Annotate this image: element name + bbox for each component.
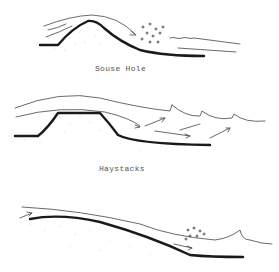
flow-arrow (155, 131, 190, 138)
flow-line (48, 24, 66, 30)
haystacks-label: Haystacks (99, 164, 145, 173)
river-features-diagram (0, 0, 279, 272)
riverbed-rock (30, 217, 243, 257)
flow-line (22, 207, 272, 244)
souse-hole-diagram (40, 15, 240, 56)
foam-turbulence (141, 23, 164, 43)
flow-arrow (180, 124, 200, 130)
flow-line (44, 15, 135, 34)
flow-arrow (210, 128, 230, 138)
flow-arrow (145, 118, 165, 126)
flow-line (178, 48, 236, 52)
riverbed-rock (15, 113, 210, 145)
flow-arrow (20, 212, 32, 218)
flow-line (15, 96, 172, 111)
souse-hole-label: Souse Hole (95, 64, 146, 73)
haystacks-diagram (15, 96, 265, 151)
flow-line (172, 105, 265, 121)
rock-stipple (30, 225, 151, 255)
flow-line (170, 38, 240, 45)
wave-hole-diagram (20, 207, 272, 257)
